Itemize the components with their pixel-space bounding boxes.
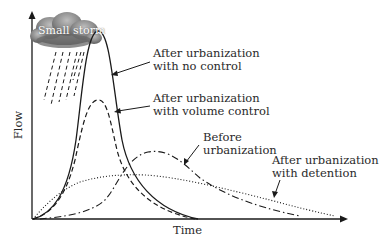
y-axis-label: Flow bbox=[11, 111, 25, 139]
leader-volume-control bbox=[114, 106, 150, 114]
label-no-control-line2: with no control bbox=[153, 60, 260, 73]
x-axis-arrow-icon bbox=[340, 216, 348, 223]
label-before-urbanization: Before urbanization bbox=[203, 131, 277, 157]
cloud-label: Small storm bbox=[38, 24, 105, 37]
y-axis-arrow-icon bbox=[29, 11, 36, 19]
label-no-control: After urbanization with no control bbox=[153, 47, 260, 73]
label-before-line2: urbanization bbox=[203, 144, 277, 157]
rain-icon bbox=[44, 52, 84, 105]
label-volume-control: After urbanization with volume control bbox=[153, 92, 270, 118]
leader-before bbox=[184, 145, 199, 165]
x-axis-label: Time bbox=[173, 223, 202, 237]
leader-no-control bbox=[111, 62, 150, 76]
leader-detention bbox=[272, 180, 280, 198]
label-detention-line2: with detention bbox=[272, 167, 379, 180]
curve-detention bbox=[33, 175, 335, 219]
label-volume-control-line2: with volume control bbox=[153, 105, 270, 118]
label-detention: After urbanization with detention bbox=[272, 154, 379, 180]
arrow-icon bbox=[272, 191, 278, 198]
